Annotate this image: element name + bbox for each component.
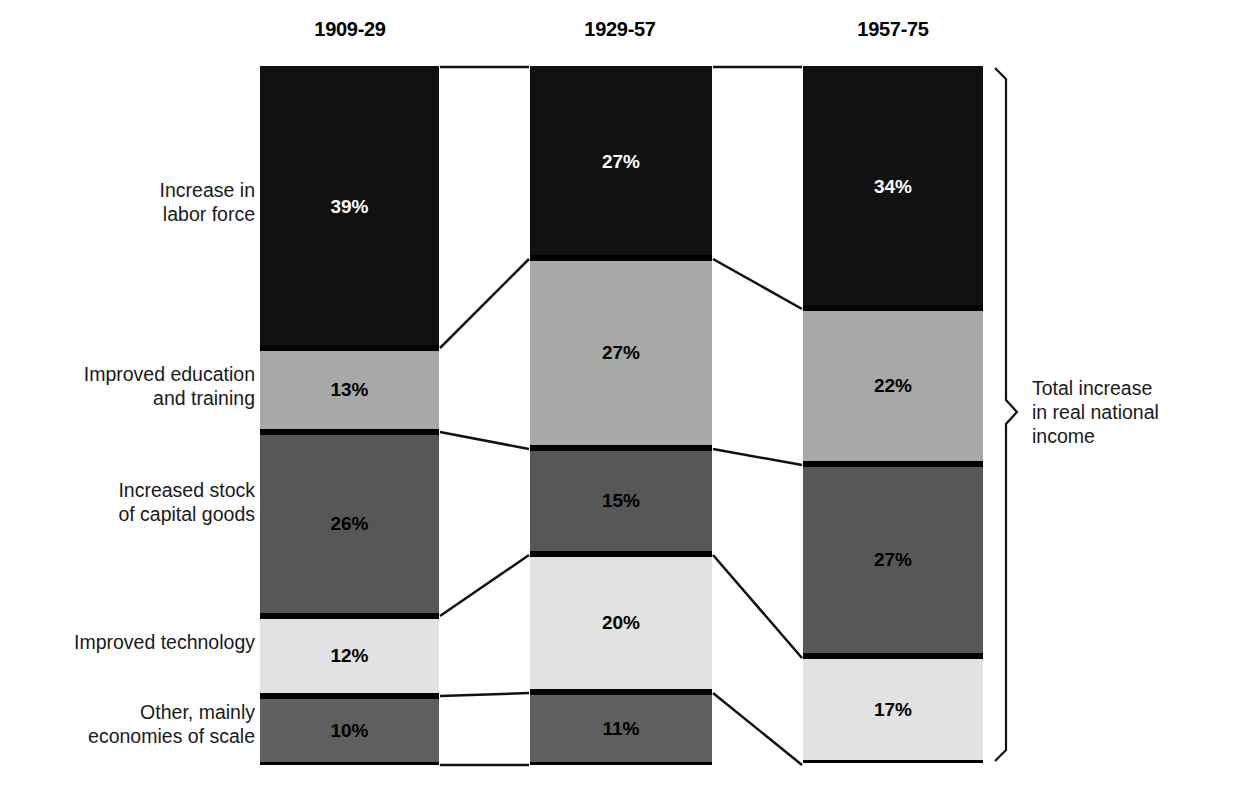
connector-capital-technology-1	[440, 555, 529, 616]
connector-education-capital-2	[713, 449, 802, 465]
segment-other-1909-29[interactable]: 10%	[260, 696, 439, 765]
connector-technology-other-2	[713, 693, 802, 765]
segment-value: 27%	[874, 549, 912, 571]
segment-capital-goods-1909-29[interactable]: 26%	[260, 432, 439, 616]
column-header-1929-57: 1929-57	[530, 18, 710, 41]
row-label-technology: Improved technology	[5, 630, 255, 654]
total-brace	[995, 68, 1017, 761]
segment-value: 34%	[874, 176, 912, 198]
segment-value: 12%	[330, 645, 368, 667]
connector-technology-other-1	[440, 693, 529, 696]
segment-value: 11%	[603, 718, 640, 740]
total-increase-label: Total increase in real national income	[1032, 376, 1232, 448]
segment-technology-1929-57[interactable]: 20%	[530, 554, 712, 692]
segment-education-1957-75[interactable]: 22%	[803, 308, 983, 464]
connector-education-capital-1	[440, 432, 529, 449]
segment-capital-goods-1929-57[interactable]: 15%	[530, 448, 712, 554]
segment-labor-force-1929-57[interactable]: 27%	[530, 66, 712, 258]
connector-labor-education-2	[713, 259, 802, 309]
bar-column-1909-29: 39% 13% 26% 12% 10%	[260, 66, 439, 765]
segment-value: 20%	[602, 612, 640, 634]
segment-labor-force-1909-29[interactable]: 39%	[260, 66, 439, 348]
stacked-bar-chart: 1909-29 1929-57 1957-75 Increase in labo…	[0, 0, 1235, 795]
connector-labor-education-1	[440, 259, 529, 348]
segment-other-1929-57[interactable]: 11%	[530, 692, 712, 765]
segment-labor-force-1957-75[interactable]: 34%	[803, 66, 983, 308]
segment-value: 13%	[330, 379, 368, 401]
bar-column-1929-57: 27% 27% 15% 20% 11%	[530, 66, 712, 765]
segment-education-1929-57[interactable]: 27%	[530, 258, 712, 448]
segment-value: 27%	[602, 151, 640, 173]
segment-capital-goods-1957-75[interactable]: 27%	[803, 464, 983, 656]
connector-capital-technology-2	[713, 555, 802, 658]
segment-education-1909-29[interactable]: 13%	[260, 348, 439, 432]
segment-value: 17%	[874, 699, 912, 721]
segment-value: 26%	[330, 513, 368, 535]
segment-value: 10%	[330, 720, 368, 742]
segment-value: 22%	[874, 375, 912, 397]
row-label-education: Improved education and training	[5, 362, 255, 410]
column-header-1957-75: 1957-75	[803, 18, 983, 41]
row-label-capital-goods: Increased stock of capital goods	[15, 478, 255, 526]
segment-value: 39%	[330, 196, 368, 218]
segment-value: 15%	[602, 490, 640, 512]
bar-column-1957-75: 34% 22% 27% 17%	[803, 66, 983, 763]
row-label-other: Other, mainly economies of scale	[5, 700, 255, 748]
segment-technology-1909-29[interactable]: 12%	[260, 616, 439, 696]
column-header-1909-29: 1909-29	[260, 18, 440, 41]
segment-technology-1957-75[interactable]: 17%	[803, 656, 983, 763]
row-label-labor-force: Increase in labor force	[15, 178, 255, 226]
segment-value: 27%	[602, 342, 640, 364]
